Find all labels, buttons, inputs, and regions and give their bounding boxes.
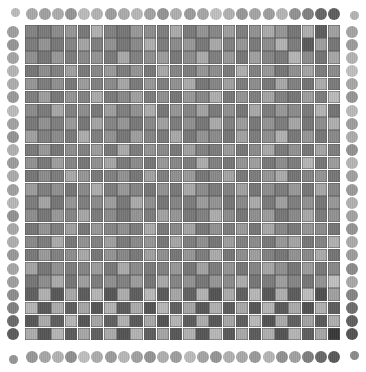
heatmap-cell (104, 78, 117, 91)
heatmap-cell (104, 249, 117, 262)
heatmap-cell (249, 104, 262, 117)
heatmap-cell (144, 104, 157, 117)
border-dot-top (210, 8, 222, 20)
heatmap-cell (209, 262, 222, 275)
heatmap-cell (65, 183, 78, 196)
heatmap-cell (288, 196, 301, 209)
heatmap-cell (25, 130, 38, 143)
heatmap-cell (183, 51, 196, 64)
heatmap-cell (302, 315, 315, 328)
heatmap-cell (91, 38, 104, 51)
heatmap-cell (262, 275, 275, 288)
border-dot-right (346, 105, 358, 117)
heatmap-cell (236, 65, 249, 78)
border-dot-top (276, 8, 288, 20)
heatmap-cell (91, 117, 104, 130)
heatmap-cell (78, 223, 91, 236)
heatmap-cell (144, 117, 157, 130)
heatmap-cell (170, 288, 183, 301)
border-dot-bottom (197, 351, 209, 363)
heatmap-cell (223, 209, 236, 222)
heatmap-cell (183, 170, 196, 183)
heatmap-cell (288, 275, 301, 288)
heatmap-cell (275, 25, 288, 38)
border-dot-bottom (289, 351, 301, 363)
heatmap-cell (249, 65, 262, 78)
heatmap-cell (249, 236, 262, 249)
heatmap-cell (144, 183, 157, 196)
border-dot-top (184, 8, 196, 20)
border-dot-top (144, 8, 156, 20)
border-dot-left (7, 289, 19, 301)
heatmap-cell (25, 170, 38, 183)
heatmap-cell (144, 209, 157, 222)
border-dot-top (249, 8, 261, 20)
border-dot-right (346, 78, 358, 90)
heatmap-cell (78, 315, 91, 328)
border-dot-bottom (39, 351, 51, 363)
heatmap-cell (91, 223, 104, 236)
heatmap-cell (236, 209, 249, 222)
heatmap-cell (288, 262, 301, 275)
heatmap-cell (209, 183, 222, 196)
heatmap-cell (209, 38, 222, 51)
heatmap-cell (144, 223, 157, 236)
heatmap-cell (78, 262, 91, 275)
heatmap-cell (25, 209, 38, 222)
heatmap-cell (223, 170, 236, 183)
heatmap-cell (315, 236, 328, 249)
border-dot-bottom (78, 351, 90, 363)
heatmap-cell (196, 78, 209, 91)
heatmap-cell (236, 328, 249, 341)
heatmap-cell (25, 144, 38, 157)
heatmap-cell (328, 51, 341, 64)
heatmap-cell (196, 65, 209, 78)
heatmap-cell (209, 288, 222, 301)
heatmap-cell (262, 91, 275, 104)
heatmap-cell (130, 51, 143, 64)
heatmap-cell (183, 104, 196, 117)
heatmap-cell (157, 262, 170, 275)
heatmap-cell (209, 104, 222, 117)
heatmap-cell (38, 249, 51, 262)
heatmap-cell (130, 209, 143, 222)
heatmap-cell (236, 104, 249, 117)
border-dot-right (346, 157, 358, 169)
heatmap-cell (196, 117, 209, 130)
border-dot-bottom (249, 351, 261, 363)
heatmap-cell (249, 157, 262, 170)
heatmap-cell (38, 157, 51, 170)
heatmap-cell (130, 170, 143, 183)
heatmap-cell (130, 183, 143, 196)
heatmap-cell (183, 302, 196, 315)
heatmap-cell (275, 288, 288, 301)
heatmap-cell (275, 117, 288, 130)
heatmap-cell (170, 209, 183, 222)
heatmap-cell (170, 51, 183, 64)
border-dot-left (7, 223, 19, 235)
border-dot-right (346, 184, 358, 196)
heatmap-cell (157, 183, 170, 196)
heatmap-cell (51, 91, 64, 104)
heatmap-cell (275, 315, 288, 328)
heatmap-cell (328, 196, 341, 209)
heatmap-cell (104, 275, 117, 288)
heatmap-cell (65, 196, 78, 209)
heatmap-cell (91, 51, 104, 64)
heatmap-cell (288, 288, 301, 301)
border-dot-top (39, 8, 51, 20)
heatmap-cell (144, 51, 157, 64)
heatmap-cell (25, 25, 38, 38)
heatmap-cell (262, 328, 275, 341)
heatmap-cell (275, 249, 288, 262)
heatmap-cell (183, 25, 196, 38)
heatmap-cell (209, 157, 222, 170)
heatmap-cell (65, 65, 78, 78)
heatmap-cell (302, 144, 315, 157)
heatmap-cell (144, 262, 157, 275)
heatmap-cell (275, 183, 288, 196)
heatmap-cell (315, 130, 328, 143)
heatmap-cell (78, 25, 91, 38)
heatmap-cell (65, 38, 78, 51)
border-dot-top (65, 8, 77, 20)
